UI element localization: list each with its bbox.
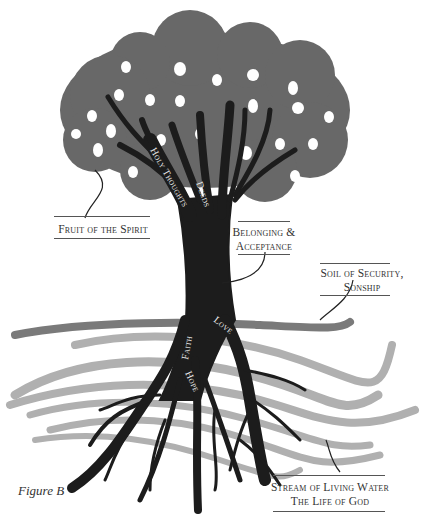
stream-rule-top <box>273 475 385 476</box>
callout-belonging-acceptance: Belonging & Acceptance <box>225 225 303 253</box>
tree-diagram: Holy Thoughts Deeds Faith Love Hope <box>0 0 430 524</box>
soil-rule-top <box>320 263 390 264</box>
callout-belonging-line1: Belonging & <box>225 225 303 239</box>
callout-soil-line1: Soil of Security, <box>310 266 414 280</box>
belonging-rule-bottom <box>238 254 290 255</box>
callout-soil-of-security: Soil of Security, Sonship <box>310 266 414 294</box>
belonging-rule-top <box>238 221 290 222</box>
callout-stream-of-living-water: Stream of Living Water The Life of God <box>262 480 398 508</box>
callout-belonging-line2: Acceptance <box>225 239 303 253</box>
callout-stream-line1: Stream of Living Water <box>262 480 398 494</box>
fruit-rule-top <box>54 216 150 217</box>
fruit-rule-bottom <box>54 238 150 239</box>
stream-rule-bottom <box>273 511 385 512</box>
callout-fruit-line1: Fruit of the Spirit <box>58 223 148 235</box>
soil-rule-bottom <box>320 295 390 296</box>
figure-caption: Figure B <box>18 483 64 499</box>
callout-stream-line2: The Life of God <box>262 494 398 508</box>
callout-fruit-of-the-spirit: Fruit of the Spirit <box>40 222 166 236</box>
callout-soil-line2: Sonship <box>310 280 414 294</box>
